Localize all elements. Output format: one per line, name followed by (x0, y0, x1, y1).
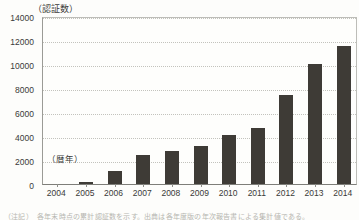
y-axis-tick-label: 10000 (0, 61, 34, 71)
bar (136, 155, 150, 184)
y-axis-tick-label: 14000 (0, 13, 34, 23)
x-axis-tick-mark (315, 184, 316, 187)
x-axis-tick-label: 2005 (75, 188, 94, 198)
x-axis-tick-mark (143, 184, 144, 187)
x-axis-tick-mark (258, 184, 259, 187)
x-axis-label: （暦年） (47, 152, 83, 164)
x-axis-tick-mark (86, 184, 87, 187)
bar (194, 146, 208, 184)
x-axis-tick-label: 2004 (47, 188, 66, 198)
x-axis-tick-mark (201, 184, 202, 187)
y-axis-tick-label: 12000 (0, 37, 34, 47)
x-axis-tick-label: 2006 (104, 188, 123, 198)
bar (279, 95, 293, 184)
bar (251, 128, 265, 184)
x-axis-tick-mark (229, 184, 230, 187)
bar-series (43, 18, 356, 184)
x-axis-tick-label: 2013 (305, 188, 324, 198)
y-axis-label: （認証数） (33, 2, 78, 15)
x-axis-tick-label: 2011 (248, 188, 266, 198)
x-axis-tick-labels: 2004200520062007200820092010201120122013… (42, 188, 357, 204)
x-axis-tick-label: 2007 (133, 188, 152, 198)
bar (108, 171, 122, 184)
x-axis-tick-mark (115, 184, 116, 187)
y-axis-tick-label: 4000 (0, 133, 34, 143)
x-axis-tick-label: 2014 (333, 188, 352, 198)
y-axis-tick-label: 0 (0, 181, 34, 191)
figure-caption: （注記） 各年末時点の累計認証数を示す。出典は各年度版の年次報告書による集計値で… (4, 211, 356, 220)
bar (308, 64, 322, 184)
x-axis-tick-mark (57, 184, 58, 187)
bar (337, 46, 351, 184)
x-axis-tick-label: 2008 (161, 188, 180, 198)
x-axis-tick-mark (344, 184, 345, 187)
y-axis-tick-label: 8000 (0, 85, 34, 95)
x-axis-tick-label: 2012 (276, 188, 295, 198)
x-axis-tick-mark (286, 184, 287, 187)
bar-chart-figure: （認証数） 02000400060008000100001200014000 （… (0, 0, 359, 220)
x-axis-tick-label: 2009 (190, 188, 209, 198)
y-axis-tick-label: 6000 (0, 109, 34, 119)
x-axis-tick-label: 2010 (219, 188, 238, 198)
plot-area: 02000400060008000100001200014000 (42, 17, 357, 185)
y-axis-tick-label: 2000 (0, 157, 34, 167)
x-axis-tick-mark (172, 184, 173, 187)
bar (222, 135, 236, 184)
bar (165, 151, 179, 184)
